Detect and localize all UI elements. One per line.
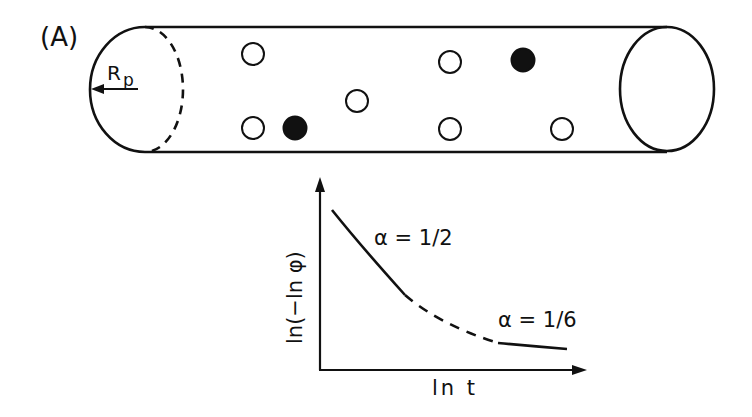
pore-tube [90,27,714,152]
alpha-half-label: α = 1/2 [374,226,453,250]
alpha-sixth-label: α = 1/6 [498,308,577,332]
curve-alpha-half [332,210,405,295]
tube-left-dashed-rim [145,27,183,152]
y-axis-arrow-icon [315,177,325,192]
filled-particle [512,49,535,72]
pore-diffusion-diagram: (A) Rp ln(−ln φ) ln t α = 1/2 α = 1/6 [0,0,752,417]
x-axis-arrow-icon [572,365,587,375]
panel-label: (A) [40,22,78,52]
open-particle [242,117,264,139]
filled-particle [284,117,307,140]
graph [315,177,587,375]
curve-crossover-dashed [405,295,498,343]
curve-alpha-sixth [498,343,567,349]
open-particle [439,118,461,140]
x-axis-label: ln t [432,376,478,400]
particles [242,43,573,140]
y-axis-label: ln(−ln φ) [283,251,307,344]
open-particle [242,43,264,65]
open-particle [346,90,368,112]
tube-right-opening [620,27,714,151]
open-particle [551,118,573,140]
arrowhead-icon [91,84,104,94]
radius-label: Rp [107,61,134,90]
open-particle [439,51,461,73]
